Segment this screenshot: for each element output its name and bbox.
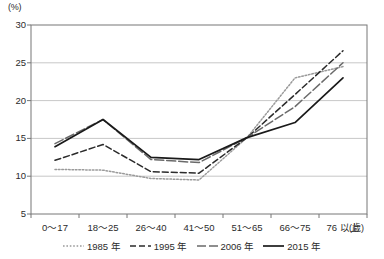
legend-label: 1985 年 xyxy=(87,239,121,253)
legend-item-2[interactable]: 2006 年 xyxy=(197,239,255,253)
x-tick-label: 51〜65 xyxy=(231,220,262,234)
x-axis-unit-label: (歳) xyxy=(349,221,364,234)
x-tick-label: 0〜17 xyxy=(42,220,68,234)
y-tick-label: 10 xyxy=(4,170,26,181)
legend-label: 2006 年 xyxy=(221,239,255,253)
line-chart: (%) 51015202530 0〜1718〜2526〜4041〜5051〜65… xyxy=(0,0,384,259)
y-tick-label: 15 xyxy=(4,132,26,143)
legend-line-swatch-icon xyxy=(63,242,84,250)
legend-item-3[interactable]: 2015 年 xyxy=(263,239,321,253)
legend-line-swatch-icon xyxy=(197,242,218,250)
x-tick-label: 26〜40 xyxy=(135,220,166,234)
legend-line-swatch-icon xyxy=(130,242,151,250)
plot-frame xyxy=(31,25,367,214)
legend-label: 2015 年 xyxy=(287,239,321,253)
y-tick-label: 5 xyxy=(4,208,26,219)
x-tick-label: 18〜25 xyxy=(87,220,118,234)
legend-item-0[interactable]: 1985 年 xyxy=(63,239,121,253)
y-tick-label: 30 xyxy=(4,19,26,30)
chart-legend: 1985 年1995 年2006 年2015 年 xyxy=(0,239,384,253)
y-tick-label: 20 xyxy=(4,95,26,106)
legend-item-1[interactable]: 1995 年 xyxy=(130,239,188,253)
legend-line-swatch-icon xyxy=(263,242,284,250)
y-tick-label: 25 xyxy=(4,57,26,68)
series-line-2 xyxy=(55,63,343,163)
x-tick-label: 66〜75 xyxy=(279,220,310,234)
series-line-1 xyxy=(55,51,343,173)
legend-label: 1995 年 xyxy=(154,239,188,253)
x-tick-label: 41〜50 xyxy=(183,220,214,234)
